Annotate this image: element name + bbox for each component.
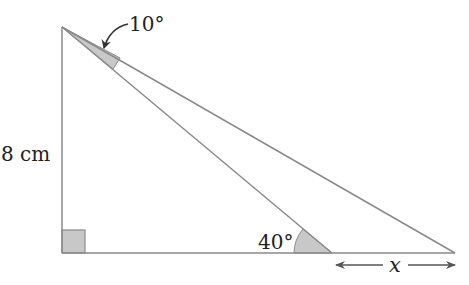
outer-hypotenuse: [62, 27, 455, 253]
triangle-diagram: 8 cm 10° 40° x: [0, 0, 469, 285]
inner-line: [62, 27, 332, 253]
label-10-degrees: 10°: [129, 12, 164, 36]
right-angle-marker: [62, 230, 85, 253]
label-40-degrees: 40°: [258, 230, 293, 254]
curved-arrow-icon: [104, 24, 128, 48]
label-x: x: [389, 253, 401, 277]
angle-40-sector: [294, 229, 332, 253]
label-8cm: 8 cm: [1, 142, 50, 166]
